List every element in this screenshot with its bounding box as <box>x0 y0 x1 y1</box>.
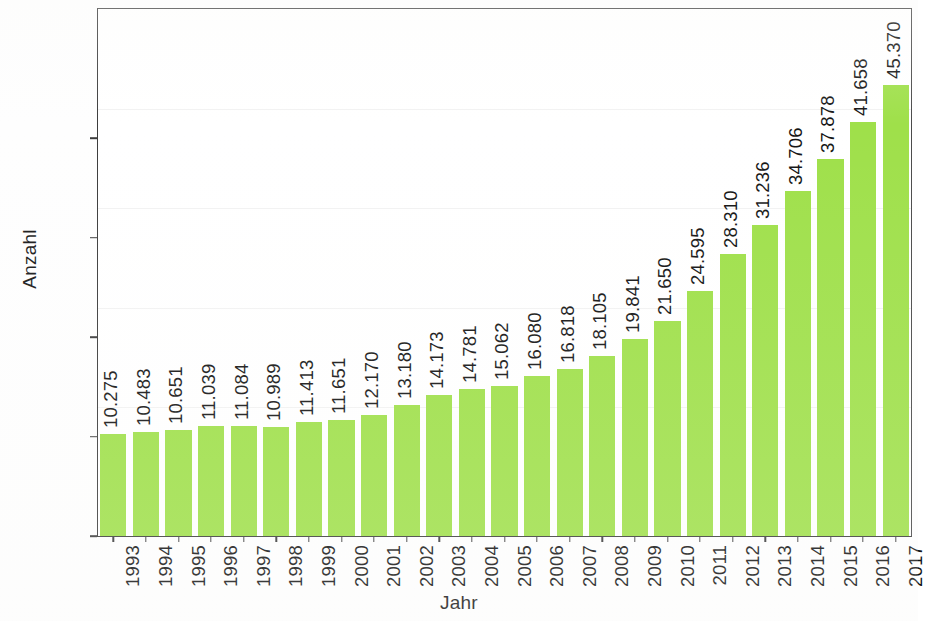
x-tick-label: 2014 <box>807 545 829 587</box>
bar[interactable] <box>687 291 713 536</box>
x-tick-mark <box>341 537 342 542</box>
bar[interactable] <box>133 432 159 536</box>
bar-value-label: 16.818 <box>556 305 578 363</box>
bar-group[interactable]: 13.180 <box>394 405 420 536</box>
bar[interactable] <box>198 426 224 536</box>
bar-group[interactable]: 15.062 <box>491 386 517 536</box>
bar-group[interactable]: 28.310 <box>720 254 746 536</box>
bar-group[interactable]: 37.878 <box>817 159 843 536</box>
bar[interactable] <box>361 415 387 536</box>
x-tick-mark <box>439 537 440 542</box>
bar-value-label: 10.651 <box>165 366 187 424</box>
bar[interactable] <box>622 339 648 536</box>
bar-group[interactable]: 16.818 <box>557 369 583 536</box>
bar[interactable] <box>491 386 517 536</box>
bar-group[interactable]: 14.781 <box>459 389 485 536</box>
x-tick-mark <box>602 537 603 542</box>
bar-group[interactable]: 11.084 <box>231 426 257 536</box>
x-tick-mark <box>862 537 863 542</box>
bar[interactable] <box>752 225 778 536</box>
bar-group[interactable]: 24.595 <box>687 291 713 536</box>
bar-value-label: 24.595 <box>687 227 709 285</box>
bar-group[interactable]: 12.170 <box>361 415 387 536</box>
bar-group[interactable]: 10.275 <box>100 434 126 536</box>
bar[interactable] <box>524 376 550 536</box>
bar-group[interactable]: 11.039 <box>198 426 224 536</box>
x-tick-mark <box>243 537 244 542</box>
x-tick-label: 1999 <box>318 545 340 587</box>
bar-value-label: 31.236 <box>752 161 774 219</box>
x-tick-mark <box>308 537 309 542</box>
x-tick-mark <box>113 537 114 542</box>
bar-value-label: 10.989 <box>263 363 285 421</box>
bar[interactable] <box>426 395 452 536</box>
bar-group[interactable]: 16.080 <box>524 376 550 536</box>
x-tick-label: 1995 <box>188 545 210 587</box>
x-tick-mark <box>145 537 146 542</box>
x-tick-label: 2009 <box>644 545 666 587</box>
bar[interactable] <box>459 389 485 536</box>
x-tick-label: 2008 <box>611 545 633 587</box>
x-axis-title: Jahr <box>0 592 918 614</box>
x-tick-mark <box>634 537 635 542</box>
bar[interactable] <box>557 369 583 536</box>
bar-value-label: 11.084 <box>230 363 252 419</box>
x-tick-label: 1996 <box>220 545 242 587</box>
bar-group[interactable]: 34.706 <box>785 191 811 536</box>
x-tick-label: 2016 <box>872 545 894 587</box>
bar[interactable] <box>296 422 322 536</box>
bar-group[interactable]: 19.841 <box>622 339 648 536</box>
bar[interactable] <box>817 159 843 536</box>
x-tick-label: 2015 <box>840 545 862 587</box>
bar[interactable] <box>850 122 876 536</box>
bar-group[interactable]: 14.173 <box>426 395 452 536</box>
bar-value-label: 41.658 <box>850 58 872 116</box>
bar-value-label: 11.413 <box>295 360 317 416</box>
x-tick-label: 2004 <box>481 545 503 587</box>
x-tick-label: 2002 <box>416 545 438 587</box>
bar-group[interactable]: 45.370 <box>883 85 909 536</box>
bar-group[interactable]: 11.413 <box>296 422 322 536</box>
x-tick-label: 2012 <box>742 545 764 587</box>
bar-group[interactable]: 10.483 <box>133 432 159 536</box>
x-tick-mark <box>471 537 472 542</box>
bar-group[interactable]: 11.651 <box>328 420 354 536</box>
x-tick-label: 1994 <box>155 545 177 587</box>
bar-value-label: 28.310 <box>719 191 741 249</box>
bar-group[interactable]: 31.236 <box>752 225 778 536</box>
x-tick-mark <box>504 537 505 542</box>
bar-value-label: 16.080 <box>524 312 546 370</box>
bar-value-label: 10.483 <box>132 368 154 426</box>
bar[interactable] <box>263 427 289 536</box>
bar[interactable] <box>654 321 680 536</box>
bar-group[interactable]: 10.651 <box>165 430 191 536</box>
bar-value-label: 11.651 <box>328 358 350 414</box>
bar-value-label: 11.039 <box>198 364 220 420</box>
bar[interactable] <box>589 356 615 536</box>
bar[interactable] <box>328 420 354 536</box>
bar-group[interactable]: 41.658 <box>850 122 876 536</box>
bar-group[interactable]: 18.105 <box>589 356 615 536</box>
bar[interactable] <box>231 426 257 536</box>
x-tick-mark <box>373 537 374 542</box>
bar[interactable] <box>720 254 746 536</box>
x-tick-label: 2006 <box>546 545 568 587</box>
bar[interactable] <box>165 430 191 536</box>
x-tick-mark <box>765 537 766 542</box>
bar[interactable] <box>883 85 909 536</box>
x-tick-mark <box>667 537 668 542</box>
bar[interactable] <box>785 191 811 536</box>
x-tick-label: 1997 <box>253 545 275 587</box>
bar[interactable] <box>100 434 126 536</box>
bar[interactable] <box>394 405 420 536</box>
x-tick-label: 2001 <box>383 545 405 587</box>
x-tick-label: 2003 <box>448 545 470 587</box>
bar-group[interactable]: 10.989 <box>263 427 289 536</box>
bar-group[interactable]: 21.650 <box>654 321 680 536</box>
bar-value-label: 37.878 <box>817 95 839 153</box>
bar-value-label: 34.706 <box>784 127 806 185</box>
x-tick-label: 1998 <box>285 545 307 587</box>
x-tick-label: 2010 <box>677 545 699 587</box>
